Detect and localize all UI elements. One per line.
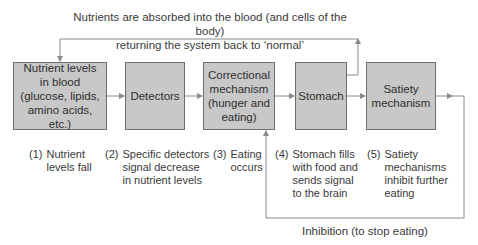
- box-detectors: Detectors: [125, 62, 185, 130]
- box-satiety-mechanism: Satiety mechanism: [366, 62, 436, 130]
- box-correctional-mechanism: Correctional mechanism (hunger and eatin…: [203, 62, 275, 130]
- caption-text: Specific detectors signal decrease in nu…: [122, 148, 209, 187]
- box-label: Nutrient levels in blood (glucose, lipid…: [18, 61, 102, 131]
- caption-1: (1) Nutrient levels fall: [29, 148, 92, 174]
- caption-number: (3): [213, 148, 226, 174]
- caption-number: (5): [367, 148, 380, 200]
- top-feedback-label: Nutrients are absorbed into the blood (a…: [60, 10, 360, 52]
- caption-number: (4): [275, 148, 288, 200]
- caption-2: (2) Specific detectors signal decrease i…: [105, 148, 209, 187]
- bottom-inhibition-label: Inhibition (to stop eating): [300, 224, 430, 238]
- caption-5: (5) Satiety mechanisms inhibit further e…: [367, 148, 448, 200]
- box-label: Satiety mechanism: [372, 82, 431, 110]
- top-label-line2: returning the system back to ‘normal’: [60, 38, 360, 52]
- caption-number: (2): [105, 148, 118, 187]
- caption-4: (4) Stomach fills with food and sends si…: [275, 148, 358, 200]
- caption-text: Stomach fills with food and sends signal…: [292, 148, 357, 200]
- caption-text: Satiety mechanisms inhibit further eatin…: [384, 148, 448, 200]
- top-label-line1: Nutrients are absorbed into the blood (a…: [60, 10, 360, 38]
- caption-text: Eating occurs: [230, 148, 262, 174]
- box-nutrient-levels: Nutrient levels in blood (glucose, lipid…: [13, 62, 107, 130]
- box-label: Stomach: [298, 89, 343, 103]
- caption-text: Nutrient levels fall: [46, 148, 91, 174]
- caption-3: (3) Eating occurs: [213, 148, 263, 174]
- box-label: Detectors: [130, 89, 179, 103]
- box-label: Correctional mechanism (hunger and eatin…: [206, 68, 272, 124]
- caption-number: (1): [29, 148, 42, 174]
- box-stomach: Stomach: [295, 62, 347, 130]
